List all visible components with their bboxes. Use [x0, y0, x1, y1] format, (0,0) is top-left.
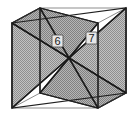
- label-7-group: 7: [86, 32, 97, 45]
- label-6-text: 6: [54, 35, 60, 47]
- cube-diagram-svg: 6 7: [0, 0, 139, 117]
- label-6-group: 6: [52, 35, 63, 48]
- geometry-figure: 6 7: [0, 0, 139, 117]
- label-7-text: 7: [88, 32, 94, 44]
